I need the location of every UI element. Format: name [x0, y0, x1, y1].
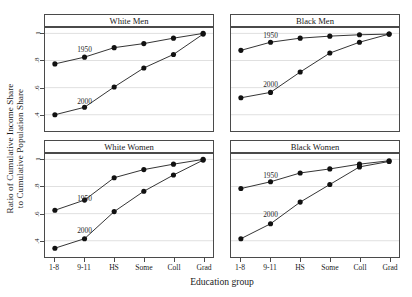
x-tick-label: Grad	[382, 263, 397, 272]
x-tick-label: Coll	[353, 263, 366, 272]
data-point	[387, 159, 392, 164]
data-point	[52, 112, 57, 117]
data-point	[171, 52, 176, 57]
data-point	[141, 189, 146, 194]
plot-canvas	[45, 28, 213, 131]
panel-black-women: Black Women195020001-89-11HSSomeCollGrad	[230, 140, 400, 258]
data-point	[171, 36, 176, 41]
y-tick-label: .6	[32, 211, 40, 216]
data-point	[327, 182, 332, 187]
series-label-2000: 2000	[263, 80, 278, 89]
y-axis-title-line1: Ratio of Cumulative Income Share	[5, 84, 15, 214]
panel-grid: White Men195020001.8.6.4Black Men1950200…	[44, 14, 400, 262]
x-tick-mark	[390, 258, 391, 262]
panel-white-men: White Men195020001.8.6.4	[44, 14, 214, 132]
data-point	[298, 36, 303, 41]
x-tick-label: Coll	[167, 263, 180, 272]
data-point	[112, 45, 117, 50]
series-label-1950: 1950	[263, 31, 278, 40]
data-point	[298, 200, 303, 205]
panel-black-men: Black Men19502000	[230, 14, 400, 132]
series-label-2000: 2000	[77, 96, 92, 105]
series-label-1950: 1950	[77, 194, 92, 203]
data-point	[327, 34, 332, 39]
data-point	[298, 69, 303, 74]
x-tick-mark	[204, 258, 205, 262]
data-point	[268, 90, 273, 95]
series-label-2000: 2000	[77, 225, 92, 234]
x-tick-label: HS	[109, 263, 119, 272]
y-tick-label: .6	[32, 85, 40, 90]
y-tick-label: 1	[33, 157, 41, 161]
data-point	[52, 61, 57, 66]
x-tick-mark	[114, 258, 115, 262]
x-tick-label: 1-8	[235, 263, 245, 272]
data-point	[327, 51, 332, 56]
panel-title: Black Women	[230, 140, 400, 153]
data-point	[112, 209, 117, 214]
data-point	[238, 48, 243, 53]
data-point	[238, 186, 243, 191]
x-tick-mark	[144, 258, 145, 262]
data-point	[387, 32, 392, 37]
plot-canvas	[231, 154, 399, 257]
data-point	[141, 65, 146, 70]
data-point	[268, 221, 273, 226]
series-label-1950: 1950	[263, 171, 278, 180]
data-point	[327, 166, 332, 171]
plot-canvas	[45, 154, 213, 257]
panel-white-women: White Women195020001.8.6.41-89-11HSSomeC…	[44, 140, 214, 258]
y-axis-title-line2: to Cumulative Population Share	[15, 89, 25, 208]
y-tick-label: .4	[32, 113, 40, 118]
plot-area: 19502000	[44, 153, 214, 258]
x-axis-title: Education group	[44, 276, 400, 287]
data-point	[141, 41, 146, 46]
x-tick-mark	[330, 258, 331, 262]
x-tick-mark	[174, 258, 175, 262]
x-tick-mark	[84, 258, 85, 262]
y-axis-title: to Cumulative Population Share Ratio of …	[0, 0, 30, 297]
y-tick-label: .8	[32, 58, 40, 63]
plot-area: 19502000	[44, 27, 214, 132]
plot-area: 19502000	[230, 27, 400, 132]
panel-title: Black Men	[230, 14, 400, 27]
plot-canvas	[231, 28, 399, 131]
chart-figure: to Cumulative Population Share Ratio of …	[0, 0, 412, 297]
x-tick-mark	[360, 258, 361, 262]
x-tick-mark	[240, 258, 241, 262]
x-tick-label: 9-11	[77, 263, 91, 272]
data-point	[201, 158, 206, 163]
data-point	[112, 84, 117, 89]
data-point	[268, 40, 273, 45]
series-label-2000: 2000	[263, 209, 278, 218]
data-point	[52, 208, 57, 213]
x-tick-label: Grad	[196, 263, 211, 272]
x-tick-mark	[270, 258, 271, 262]
y-axis-ticks: 1.8.6.4	[39, 153, 44, 258]
data-point	[268, 179, 273, 184]
data-point	[82, 55, 87, 60]
series-line-1950	[55, 159, 203, 210]
data-point	[201, 32, 206, 37]
data-point	[171, 172, 176, 177]
data-point	[82, 236, 87, 241]
x-axis-ticks: 1-89-11HSSomeCollGrad	[230, 258, 400, 274]
data-point	[357, 164, 362, 169]
y-tick-label: .4	[32, 239, 40, 244]
x-tick-label: 1-8	[49, 263, 59, 272]
data-point	[238, 95, 243, 100]
plot-area: 19502000	[230, 153, 400, 258]
data-point	[52, 246, 57, 251]
panel-title: White Men	[44, 14, 214, 27]
data-point	[112, 175, 117, 180]
y-axis-ticks: 1.8.6.4	[39, 27, 44, 132]
x-tick-mark	[54, 258, 55, 262]
x-tick-label: 9-11	[263, 263, 277, 272]
panel-title: White Women	[44, 140, 214, 153]
data-point	[82, 105, 87, 110]
x-tick-label: HS	[295, 263, 305, 272]
x-axis-ticks: 1-89-11HSSomeCollGrad	[44, 258, 214, 274]
data-point	[298, 170, 303, 175]
data-point	[141, 167, 146, 172]
x-tick-label: Some	[135, 263, 152, 272]
